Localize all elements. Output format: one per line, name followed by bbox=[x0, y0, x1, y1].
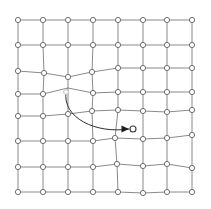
mesh-edge-horizontal bbox=[118, 110, 143, 111]
mesh-node bbox=[65, 74, 70, 79]
mesh-node bbox=[115, 42, 120, 47]
mesh-edge-vertical bbox=[92, 72, 93, 93]
mesh-node bbox=[164, 161, 169, 166]
mesh-node bbox=[90, 138, 95, 143]
mesh-node bbox=[189, 17, 194, 22]
mesh-edge-horizontal bbox=[143, 192, 167, 193]
mesh-edge-horizontal bbox=[93, 164, 117, 167]
mesh-node bbox=[114, 161, 119, 166]
mesh-edge-horizontal bbox=[115, 138, 143, 139]
mesh-edge-horizontal bbox=[93, 92, 118, 93]
mesh-edge-vertical bbox=[43, 73, 44, 94]
mesh-edge-horizontal bbox=[92, 110, 118, 111]
mesh-edge-horizontal bbox=[18, 71, 44, 73]
mesh-node bbox=[15, 113, 20, 118]
mesh-node bbox=[15, 91, 20, 96]
mesh-edge-vertical bbox=[43, 45, 44, 73]
mesh-node bbox=[90, 42, 95, 47]
mesh-node bbox=[164, 89, 169, 94]
mesh-node bbox=[40, 164, 45, 169]
mesh-node bbox=[65, 111, 70, 116]
mesh-node bbox=[140, 42, 145, 47]
mesh-edge-horizontal bbox=[93, 138, 115, 141]
mesh-node bbox=[65, 42, 70, 47]
mesh-node bbox=[15, 68, 20, 73]
mesh-edge-vertical bbox=[117, 164, 118, 192]
mesh-node bbox=[89, 69, 94, 74]
mesh-node bbox=[140, 108, 145, 113]
mesh-edge-horizontal bbox=[167, 110, 192, 112]
mesh-node bbox=[115, 89, 120, 94]
mesh-node bbox=[140, 163, 145, 168]
mesh-node bbox=[40, 113, 45, 118]
mesh-nodes-layer bbox=[15, 17, 194, 195]
mesh-edge-horizontal bbox=[68, 88, 93, 93]
mesh-node bbox=[90, 189, 95, 194]
mesh-edge-horizontal bbox=[143, 111, 167, 112]
mesh-grid-canvas bbox=[0, 0, 211, 209]
mesh-node bbox=[140, 17, 145, 22]
mesh-node bbox=[164, 65, 169, 70]
mesh-edge-horizontal bbox=[118, 192, 143, 193]
mesh-node bbox=[90, 164, 95, 169]
mesh-grid-figure bbox=[0, 0, 211, 209]
mesh-node bbox=[65, 189, 70, 194]
mesh-node bbox=[115, 107, 120, 112]
displacement-arrowhead-icon bbox=[122, 125, 130, 132]
mesh-node bbox=[40, 42, 45, 47]
mesh-node bbox=[164, 109, 169, 114]
mesh-node bbox=[15, 42, 20, 47]
mesh-edge-horizontal bbox=[68, 72, 92, 77]
mesh-node bbox=[189, 65, 194, 70]
mesh-node bbox=[189, 189, 194, 194]
mesh-edge-horizontal bbox=[43, 114, 68, 116]
mesh-node bbox=[140, 136, 145, 141]
mesh-edge-vertical bbox=[92, 45, 93, 72]
mesh-node bbox=[15, 164, 20, 169]
mesh-node bbox=[15, 138, 20, 143]
mesh-node bbox=[115, 65, 120, 70]
mesh-node bbox=[164, 42, 169, 47]
mesh-edge-vertical bbox=[115, 138, 117, 164]
mesh-node bbox=[15, 189, 20, 194]
mesh-node bbox=[112, 135, 117, 140]
mesh-edge-horizontal bbox=[44, 73, 68, 77]
mesh-node bbox=[40, 138, 45, 143]
displaced-target-node bbox=[130, 126, 136, 132]
mesh-node bbox=[65, 164, 70, 169]
mesh-edge-horizontal bbox=[167, 135, 192, 138]
displaced-source-node bbox=[64, 90, 69, 95]
mesh-node bbox=[89, 108, 94, 113]
mesh-node bbox=[41, 70, 46, 75]
mesh-node bbox=[15, 17, 20, 22]
mesh-node bbox=[65, 17, 70, 22]
mesh-edge-horizontal bbox=[92, 68, 118, 72]
mesh-node bbox=[90, 17, 95, 22]
mesh-node bbox=[189, 132, 194, 137]
mesh-node bbox=[40, 189, 45, 194]
mesh-edge-horizontal bbox=[143, 164, 167, 166]
mesh-node bbox=[189, 165, 194, 170]
mesh-node bbox=[40, 17, 45, 22]
mesh-edge-horizontal bbox=[167, 164, 192, 168]
mesh-edge-horizontal bbox=[143, 138, 167, 139]
mesh-node bbox=[140, 89, 145, 94]
mesh-node bbox=[40, 91, 45, 96]
mesh-edge-vertical bbox=[115, 110, 118, 138]
mesh-node bbox=[189, 107, 194, 112]
mesh-node bbox=[65, 138, 70, 143]
mesh-node bbox=[115, 17, 120, 22]
mesh-edge-horizontal bbox=[117, 164, 143, 166]
mesh-node bbox=[140, 190, 145, 195]
mesh-node bbox=[164, 135, 169, 140]
mesh-node bbox=[189, 89, 194, 94]
mesh-node bbox=[140, 65, 145, 70]
mesh-node bbox=[115, 189, 120, 194]
mesh-node bbox=[189, 42, 194, 47]
mesh-node bbox=[164, 17, 169, 22]
mesh-node bbox=[90, 90, 95, 95]
mesh-node bbox=[164, 189, 169, 194]
